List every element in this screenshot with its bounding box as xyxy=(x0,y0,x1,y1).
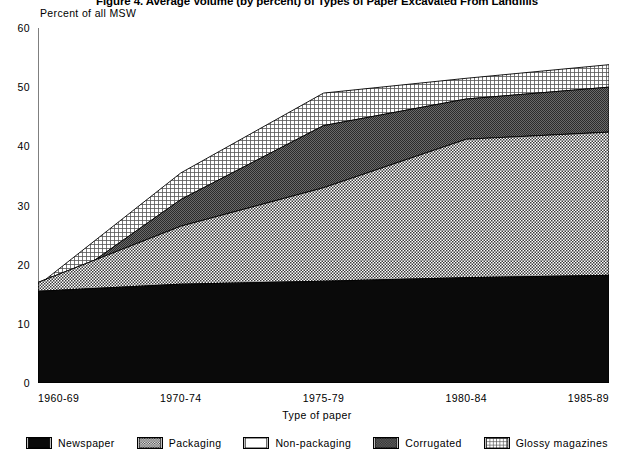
x-tick-label: 1970-74 xyxy=(160,392,201,404)
y-axis-unit-label: Percent of all MSW xyxy=(40,7,136,19)
plot-area xyxy=(38,28,609,383)
legend-item[interactable]: Non-packaging xyxy=(243,437,351,449)
y-axis-tick-labels: 0102030405060 xyxy=(0,0,38,467)
legend-item[interactable]: Corrugated xyxy=(373,437,462,449)
y-tick-label: 10 xyxy=(0,318,30,330)
x-axis-title: Type of paper xyxy=(0,409,634,421)
legend-label: Corrugated xyxy=(405,437,462,449)
legend-swatch-icon xyxy=(484,437,510,449)
legend-item[interactable]: Glossy magazines xyxy=(484,437,608,449)
x-tick-label: 1975-79 xyxy=(303,392,344,404)
y-tick-label: 40 xyxy=(0,140,30,152)
legend-item[interactable]: Newspaper xyxy=(26,437,115,449)
legend-swatch-icon xyxy=(137,437,163,449)
legend-item[interactable]: Packaging xyxy=(137,437,222,449)
y-tick-label: 0 xyxy=(0,377,30,389)
legend-swatch-icon xyxy=(243,437,269,449)
legend-swatch-icon xyxy=(26,437,52,449)
y-tick-label: 50 xyxy=(0,81,30,93)
x-tick-label: 1980-84 xyxy=(446,392,487,404)
legend-label: Newspaper xyxy=(58,437,115,449)
y-tick-label: 30 xyxy=(0,200,30,212)
x-tick-label: 1985-89 xyxy=(568,392,609,404)
y-tick-label: 20 xyxy=(0,259,30,271)
y-tick-label: 60 xyxy=(0,22,30,34)
chart-title: Figure 4. Average Volume (by percent) of… xyxy=(0,0,634,7)
legend-label: Non-packaging xyxy=(275,437,351,449)
legend-label: Glossy magazines xyxy=(516,437,608,449)
x-tick-label: 1960-69 xyxy=(38,392,79,404)
stacked-area-chart: Figure 4. Average Volume (by percent) of… xyxy=(0,0,634,467)
area-band-newspaper xyxy=(38,275,609,383)
chart-legend: NewspaperPackagingNon-packagingCorrugate… xyxy=(0,437,634,449)
legend-swatch-icon xyxy=(373,437,399,449)
legend-label: Packaging xyxy=(169,437,222,449)
area-series-canvas xyxy=(38,28,609,383)
